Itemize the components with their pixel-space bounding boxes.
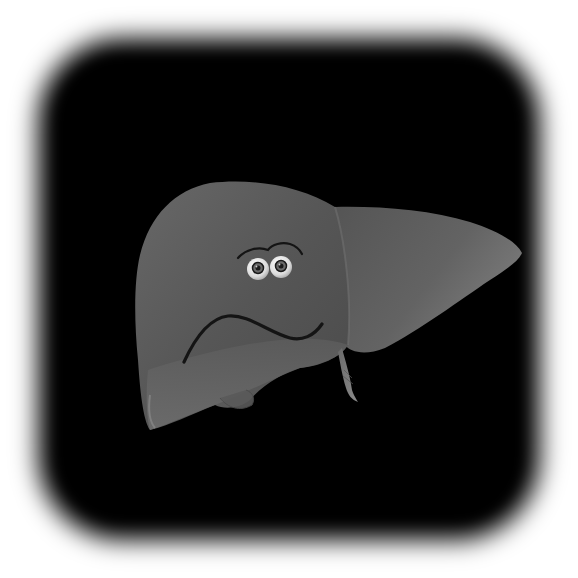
left-eye-icon [247,258,269,280]
right-eye-icon [270,256,292,278]
illustration-canvas: Grayscale cartoon illustration of a huma… [0,0,578,578]
liver-illustration [0,0,578,578]
liver-left-lobe [335,207,522,353]
liver-ligament [338,348,358,402]
